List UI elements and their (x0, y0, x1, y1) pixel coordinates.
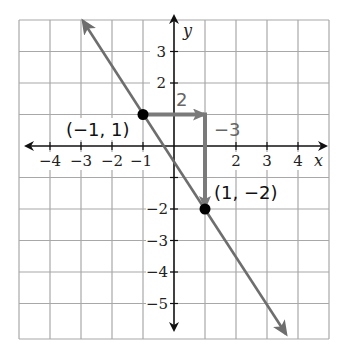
y-axis-label: y (182, 21, 193, 40)
x-tick-label: 2 (231, 152, 241, 170)
coordinate-graph: −4 −3 −2 −1 2 3 4 3 2 −2 −3 −4 −5 y x 2 … (0, 0, 348, 364)
run-label: 2 (176, 89, 187, 110)
x-tick-label: −4 (39, 152, 61, 170)
x-axis-label: x (314, 151, 323, 170)
y-tick-label: −2 (146, 200, 168, 218)
x-tick-label: −3 (70, 152, 92, 170)
rise-label: −3 (214, 119, 241, 140)
x-tick-label: 4 (293, 152, 303, 170)
point-b (200, 204, 211, 215)
point-a-label: (−1, 1) (66, 119, 129, 140)
y-tick-label: −5 (146, 295, 168, 313)
y-tick-label: 3 (156, 43, 166, 61)
y-tick-label: −3 (146, 232, 168, 250)
point-a (138, 109, 149, 120)
y-tick-label: 2 (156, 74, 166, 92)
y-tick-label: −4 (146, 263, 168, 281)
x-tick-label: 3 (262, 152, 272, 170)
point-b-label: (1, −2) (214, 182, 277, 203)
x-tick-label: −1 (130, 152, 152, 170)
x-tick-label: −2 (101, 152, 123, 170)
